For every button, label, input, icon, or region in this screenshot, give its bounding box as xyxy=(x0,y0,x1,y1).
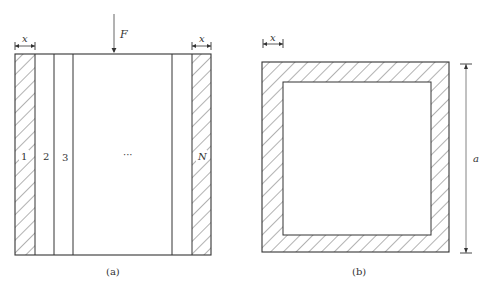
dim-label-a: a xyxy=(473,153,479,164)
diagram-canvas: F x x 1 2 3 ··· N (a) xyxy=(0,0,482,291)
strip-label-3: 3 xyxy=(62,152,68,163)
dimension-x-left: x xyxy=(15,33,35,50)
caption-b: (b) xyxy=(352,266,366,277)
strip-label-ellipsis: ··· xyxy=(123,149,133,160)
dim-label-x: x xyxy=(22,33,28,44)
dimension-x-b: x xyxy=(263,32,283,48)
dim-label-x-b: x xyxy=(270,32,276,43)
figure-a: F x x 1 2 3 ··· N (a) xyxy=(15,14,211,277)
dimension-x-right: x xyxy=(192,33,211,50)
dim-label-x: x xyxy=(199,33,205,44)
strip-label-1: 1 xyxy=(21,151,27,162)
strip-label-n: N xyxy=(197,151,208,162)
force-label: F xyxy=(119,28,128,41)
figure-b: x a (b) xyxy=(262,32,479,277)
caption-a: (a) xyxy=(106,266,120,277)
tube-inner-outline xyxy=(283,82,431,235)
strip-label-2: 2 xyxy=(43,151,49,162)
dimension-a: a xyxy=(460,64,479,253)
